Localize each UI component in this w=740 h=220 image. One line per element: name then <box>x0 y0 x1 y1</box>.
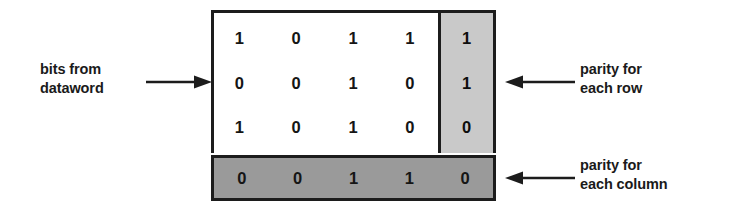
row-parity-label: parity for each row <box>580 60 720 98</box>
data-bit: 0 <box>268 74 325 93</box>
dataword-arrow-icon <box>146 74 214 90</box>
table-row: 1 0 1 1 1 <box>211 16 496 61</box>
data-bit: 0 <box>268 29 325 48</box>
row-parity-bit: 1 <box>438 74 495 93</box>
column-parity-bit: 0 <box>270 169 326 188</box>
column-parity-cells: 0 0 1 1 0 <box>214 158 493 198</box>
data-bit: 1 <box>325 29 382 48</box>
table-row: 1 0 1 0 0 <box>211 105 496 150</box>
column-parity-bit: 0 <box>214 169 270 188</box>
data-bit: 1 <box>325 118 382 137</box>
data-bit: 1 <box>211 118 268 137</box>
data-bit: 1 <box>211 29 268 48</box>
dataword-label: bits from dataword <box>40 60 144 98</box>
data-bit: 0 <box>381 74 438 93</box>
data-bit: 0 <box>268 118 325 137</box>
column-parity-arrow-icon <box>497 170 575 186</box>
column-parity-bit: 1 <box>381 169 437 188</box>
data-bit: 0 <box>381 118 438 137</box>
table-row: 0 0 1 0 1 <box>211 61 496 106</box>
data-bit: 0 <box>211 74 268 93</box>
column-parity-bit: 0 <box>437 169 493 188</box>
parity-matrix: 1 0 1 1 1 0 0 1 0 1 1 0 1 0 0 0 0 1 1 <box>211 10 496 201</box>
parity-diagram: bits from dataword 1 0 1 1 1 0 0 1 0 1 1… <box>0 0 740 220</box>
column-parity-bit: 1 <box>326 169 382 188</box>
data-bit: 1 <box>325 74 382 93</box>
row-parity-bit: 1 <box>438 29 495 48</box>
column-parity-label: parity for each column <box>580 156 730 194</box>
column-parity-row: 0 0 1 1 0 <box>211 155 496 201</box>
row-parity-arrow-icon <box>497 74 575 90</box>
data-bit: 1 <box>381 29 438 48</box>
row-parity-bit: 0 <box>438 118 495 137</box>
